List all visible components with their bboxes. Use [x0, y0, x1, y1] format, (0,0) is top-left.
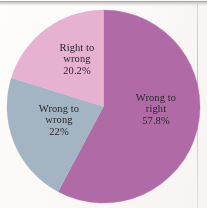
pie-label-wrong-to-right-line1: Wrong to [117, 92, 195, 103]
pie-label-wrong-to-right-value: 57.8% [117, 115, 195, 126]
pie-label-wrong-to-wrong-line1: Wrong to [20, 103, 98, 114]
pie-chart: Right to wrong 20.2% Wrong to wrong 22% … [0, 0, 207, 208]
pie-label-right-to-wrong-line2: wrong [38, 53, 116, 64]
scanned-page: Right to wrong 20.2% Wrong to wrong 22% … [0, 0, 207, 208]
pie-label-wrong-to-wrong-line2: wrong [20, 114, 98, 125]
pie-label-right-to-wrong-line1: Right to [38, 42, 116, 53]
pie-label-right-to-wrong: Right to wrong 20.2% [38, 42, 116, 76]
pie-label-wrong-to-right-line2: right [117, 103, 195, 114]
pie-label-wrong-to-wrong: Wrong to wrong 22% [20, 103, 98, 137]
pie-label-wrong-to-wrong-value: 22% [20, 126, 98, 137]
pie-label-right-to-wrong-value: 20.2% [38, 65, 116, 76]
pie-label-wrong-to-right: Wrong to right 57.8% [117, 92, 195, 126]
